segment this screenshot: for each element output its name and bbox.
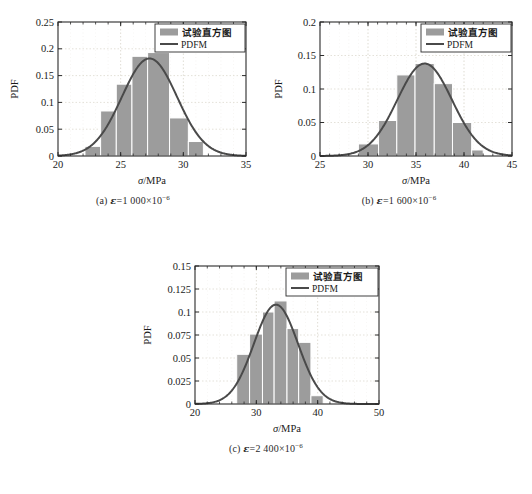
- caption-b-exponent: −6: [428, 194, 436, 202]
- y-tick-label: 0.15: [298, 50, 316, 61]
- x-tick-label: 20: [53, 159, 64, 170]
- y-tick-label: 0: [49, 151, 54, 162]
- x-tick-label: 20: [190, 407, 201, 418]
- caption-a-eq: =1 000×10: [117, 195, 163, 206]
- legend-label-histogram: 试验直方图: [448, 27, 498, 38]
- y-tick-label: 0.15: [36, 70, 54, 81]
- y-tick-label: 0.025: [167, 376, 191, 387]
- histogram-bar: [452, 123, 471, 157]
- x-axis-title: σ/MPa: [402, 175, 430, 186]
- x-axis-unit: /MPa: [143, 175, 166, 186]
- y-axis-title: PDF: [142, 325, 153, 344]
- x-tick-label: 50: [374, 407, 385, 418]
- x-tick-label: 30: [251, 407, 261, 418]
- histogram-bar: [379, 120, 397, 156]
- y-axis-title: PDF: [9, 79, 20, 98]
- x-tick-label: 35: [241, 159, 252, 170]
- histogram-bar: [415, 64, 434, 156]
- histogram-bar: [116, 84, 132, 156]
- histogram-bar: [397, 75, 415, 156]
- legend: 试验直方图PDFM: [421, 24, 511, 52]
- legend-label-pdfm: PDFM: [181, 40, 207, 50]
- caption-c-prefix: (c): [229, 443, 243, 454]
- legend-swatch-histogram: [160, 29, 178, 36]
- y-tick-label: 0: [186, 399, 191, 410]
- x-axis-title: σ/MPa: [273, 423, 301, 434]
- caption-a-prefix: (a): [96, 195, 110, 206]
- caption-b-prefix: (b): [362, 195, 377, 206]
- caption-b-eq: =1 600×10: [383, 195, 429, 206]
- y-tick-label: 0.125: [167, 284, 191, 295]
- chart-b: 253035404500.050.10.150.2σ/MPaPDF试验直方图PD…: [268, 4, 530, 192]
- histogram-bar: [262, 312, 274, 404]
- y-tick-label: 0.05: [173, 353, 191, 364]
- y-tick-label: 0.25: [36, 17, 54, 28]
- x-tick-label: 35: [411, 159, 422, 170]
- y-tick-label: 0.075: [167, 330, 191, 341]
- caption-c: (c) ε=2 400×10−6: [135, 442, 397, 454]
- x-axis-unit: /MPa: [407, 175, 430, 186]
- histogram-bar: [274, 301, 287, 404]
- panel-c: 2030405000.0250.050.0750.10.1250.15σ/MPa…: [135, 248, 397, 460]
- legend-swatch-histogram: [426, 29, 444, 36]
- legend: 试验直方图PDFM: [286, 268, 378, 296]
- legend: 试验直方图PDFM: [155, 24, 245, 52]
- x-tick-label: 40: [459, 159, 470, 170]
- x-tick-label: 40: [312, 407, 323, 418]
- histogram-bar: [311, 396, 323, 404]
- x-tick-label: 25: [315, 159, 326, 170]
- chart-a: 2025303500.050.10.150.20.25σ/MPaPDF试验直方图…: [2, 4, 264, 192]
- x-tick-label: 30: [178, 159, 189, 170]
- y-tick-label: 0.1: [303, 84, 316, 95]
- x-tick-label: 30: [363, 159, 374, 170]
- y-axis-title: PDF: [273, 79, 284, 98]
- y-tick-label: 0.05: [298, 117, 316, 128]
- x-tick-label: 25: [115, 159, 126, 170]
- y-tick-label: 0.1: [178, 307, 191, 318]
- legend-label-pdfm: PDFM: [447, 40, 473, 50]
- y-tick-label: 0: [311, 151, 316, 162]
- legend-label-histogram: 试验直方图: [182, 27, 232, 38]
- y-tick-label: 0.2: [41, 43, 54, 54]
- figure-root: 2025303500.050.10.150.20.25σ/MPaPDF试验直方图…: [0, 0, 532, 494]
- histogram-bar: [250, 334, 263, 404]
- y-tick-label: 0.1: [41, 97, 54, 108]
- x-axis-title: σ/MPa: [138, 175, 166, 186]
- legend-label-pdfm: PDFM: [312, 284, 338, 294]
- panel-a: 2025303500.050.10.150.20.25σ/MPaPDF试验直方图…: [2, 4, 264, 214]
- caption-b: (b) ε=1 600×10−6: [268, 194, 530, 206]
- y-tick-label: 0.05: [36, 124, 54, 135]
- legend-label-histogram: 试验直方图: [313, 271, 363, 282]
- x-tick-label: 45: [507, 159, 518, 170]
- panel-b: 253035404500.050.10.150.2σ/MPaPDF试验直方图PD…: [268, 4, 530, 214]
- caption-c-eq: =2 400×10: [250, 443, 296, 454]
- y-tick-label: 0.2: [303, 17, 316, 28]
- caption-a: (a) ε=1 000×10−6: [2, 194, 264, 206]
- histogram-bar: [170, 118, 189, 156]
- caption-c-exponent: −6: [295, 442, 303, 450]
- x-axis-unit: /MPa: [278, 423, 301, 434]
- legend-swatch-histogram: [291, 273, 309, 280]
- histogram-bar: [148, 53, 170, 156]
- chart-c: 2030405000.0250.050.0750.10.1250.15σ/MPa…: [135, 248, 397, 440]
- caption-a-exponent: −6: [162, 194, 170, 202]
- y-tick-label: 0.15: [173, 261, 191, 272]
